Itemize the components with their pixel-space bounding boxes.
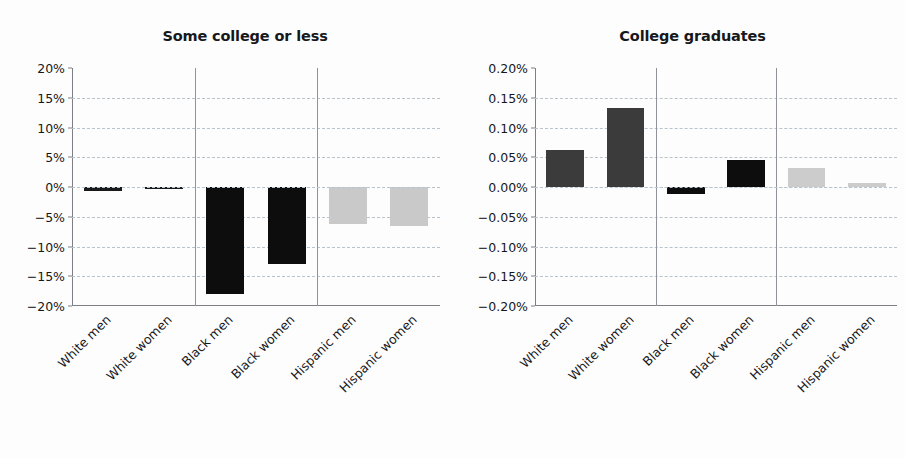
bar [206,187,244,294]
chart-title-left: Some college or less [0,28,450,44]
y-axis-tick-mark [68,216,72,217]
y-axis-tick-mark [531,157,535,158]
y-axis-tick-label: 0% [45,180,65,195]
y-axis-tick-label: 5% [45,150,65,165]
y-axis-tick-mark [531,68,535,69]
y-axis-tick-mark [68,127,72,128]
x-axis-spine-left [72,305,440,306]
y-axis-tick-label: −20% [27,299,65,314]
bar [390,187,428,226]
y-axis-tick-mark [68,97,72,98]
y-axis-tick-mark [531,97,535,98]
gridline [535,247,897,248]
y-axis-tick-label: 15% [37,90,65,105]
plot-area-right: 0.20%0.15%0.10%0.05%0.00%−0.05%−0.10%−0.… [535,68,897,306]
figure-root: Some college or less 20%15%10%5%0%−5%−10… [0,0,905,458]
bar [268,187,306,264]
y-axis-tick-label: 0.00% [488,180,528,195]
y-axis-tick-mark [531,246,535,247]
bar [546,150,583,187]
y-axis-tick-label: 20% [37,61,65,76]
y-axis-tick-mark [68,157,72,158]
gridline [535,128,897,129]
bar [329,187,367,224]
y-axis-tick-label: 0.10% [488,120,528,135]
y-axis-tick-label: 0.05% [488,150,528,165]
gridline [535,217,897,218]
y-axis-tick-mark [531,306,535,307]
chart-panel-some-college-or-less: Some college or less 20%15%10%5%0%−5%−10… [0,0,450,458]
bar [788,168,825,187]
gridline [72,157,440,158]
gridline [72,247,440,248]
y-axis-tick-mark [68,68,72,69]
y-axis-tick-label: −10% [27,239,65,254]
x-axis-spine-right [535,305,897,306]
chart-title-right: College graduates [450,28,905,44]
y-axis-tick-label: 10% [37,120,65,135]
zero-line [535,187,897,188]
y-axis-tick-mark [68,246,72,247]
chart-panel-college-graduates: College graduates 0.20%0.15%0.10%0.05%0.… [450,0,905,458]
plot-area-left: 20%15%10%5%0%−5%−10%−15%−20%White menWhi… [72,68,440,306]
gridline [72,128,440,129]
y-axis-tick-label: −5% [35,209,65,224]
gridline [72,217,440,218]
gridline [535,98,897,99]
y-axis-tick-label: −0.05% [478,209,528,224]
y-axis-tick-mark [68,276,72,277]
bar [727,160,764,187]
y-axis-tick-mark [531,127,535,128]
y-axis-tick-label: 0.15% [488,90,528,105]
y-axis-tick-mark [531,276,535,277]
gridline [72,98,440,99]
y-axis-tick-mark [531,216,535,217]
y-axis-tick-label: −15% [27,269,65,284]
y-axis-tick-label: −0.15% [478,269,528,284]
bar [607,108,644,187]
gridline [535,157,897,158]
gridline [72,276,440,277]
y-axis-tick-mark [68,306,72,307]
y-axis-tick-label: 0.20% [488,61,528,76]
gridline [535,276,897,277]
y-axis-tick-label: −0.10% [478,239,528,254]
bar [667,187,704,194]
y-axis-tick-label: −0.20% [478,299,528,314]
zero-line [72,187,440,188]
